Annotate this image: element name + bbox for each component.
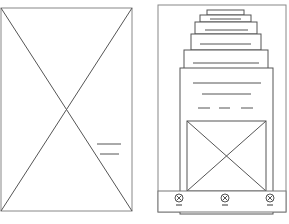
bottom-bar (158, 191, 286, 212)
right-frame (158, 5, 286, 214)
stacked-card-5 (184, 50, 268, 69)
stacked-card-4 (191, 34, 261, 50)
stacked-card-1 (207, 10, 244, 15)
wireframe-diagram (0, 0, 289, 224)
left-frame (1, 8, 132, 211)
stacked-card-3 (195, 22, 257, 34)
